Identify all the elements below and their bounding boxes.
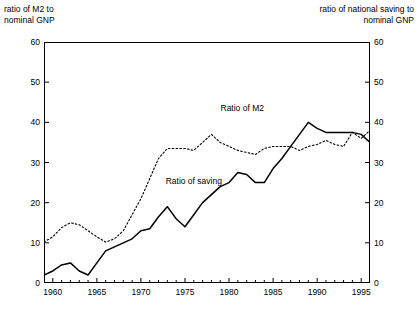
x-axis-tick-label: 1985	[264, 287, 283, 297]
y-axis-right-tick-label: 40	[374, 117, 383, 127]
x-axis-tick-label: 1980	[220, 287, 239, 297]
x-axis-tick-label: 1960	[43, 287, 62, 297]
x-axis-tick-label: 1995	[352, 287, 371, 297]
y-axis-right-tick-label: 20	[374, 198, 383, 208]
x-axis-tick-label: 1970	[131, 287, 150, 297]
y-axis-right-tick-label: 10	[374, 238, 383, 248]
chart-root: ratio of M2 to nominal GNP ratio of nati…	[0, 0, 420, 309]
y-axis-left-tick-label: 0	[35, 278, 40, 288]
x-axis-tick-label: 1975	[176, 287, 195, 297]
series-annotation-ratio-of-m2: Ratio of M2	[221, 103, 264, 113]
x-axis-tick-label: 1990	[308, 287, 327, 297]
y-axis-left-tick-label: 20	[31, 198, 40, 208]
right-axis-caption: ratio of national saving to nominal GNP	[319, 4, 414, 25]
y-axis-left-tick-label: 30	[31, 158, 40, 168]
y-axis-right-tick-label: 50	[374, 77, 383, 87]
y-axis-left-tick-label: 40	[31, 117, 40, 127]
y-axis-left-tick-label: 60	[31, 37, 40, 47]
x-axis-tick-label: 1965	[87, 287, 106, 297]
tick-marks	[44, 42, 370, 283]
axes-border	[45, 43, 370, 283]
y-axis-right-tick-label: 0	[374, 278, 379, 288]
series-line-ratio-of-m2	[44, 130, 370, 242]
y-axis-left-tick-label: 50	[31, 77, 40, 87]
y-axis-left-tick-label: 10	[31, 238, 40, 248]
y-axis-right-tick-label: 30	[374, 158, 383, 168]
left-axis-caption: ratio of M2 to nominal GNP	[4, 4, 55, 25]
series-annotation-ratio-of-saving: Ratio of saving	[166, 176, 222, 186]
plot-frame	[44, 42, 370, 283]
y-axis-right-tick-label: 60	[374, 37, 383, 47]
plot-area: 0102030405060 0102030405060 196019651970…	[44, 42, 370, 283]
series-line-ratio-of-saving	[44, 122, 370, 275]
